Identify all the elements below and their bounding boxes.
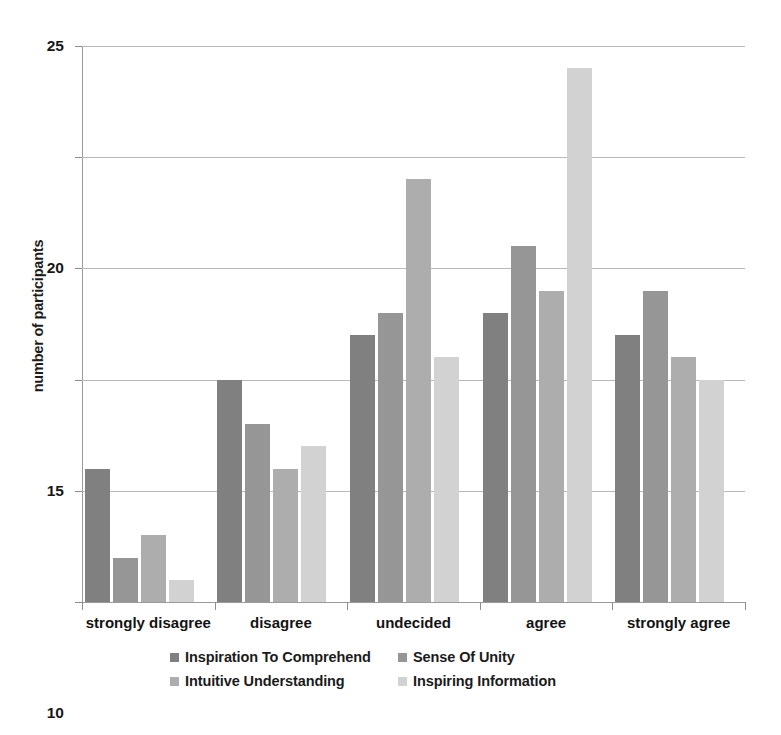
bar[interactable] [169,580,194,602]
legend-swatch-icon [398,677,407,686]
legend-label: Intuitive Understanding [185,673,345,689]
y-tick-mark-25: 25 [75,46,82,47]
bar[interactable] [85,469,110,602]
x-tick-mark [480,602,481,610]
bar[interactable] [217,380,242,602]
gridline-0 [82,602,745,603]
legend-swatch-icon [398,653,407,662]
x-tick-mark [215,602,216,610]
legend-row: Inspiration To ComprehendSense Of Unity [170,649,620,665]
bar[interactable] [113,558,138,602]
bar[interactable] [434,357,459,602]
legend-label: Sense Of Unity [413,649,515,665]
bar[interactable] [273,469,298,602]
legend-swatch-icon [170,653,179,662]
plot-area: 0510152025 [82,46,745,602]
legend-label: Inspiration To Comprehend [185,649,371,665]
y-tick-mark-0: 0 [75,602,82,603]
bar[interactable] [615,335,640,602]
bar-chart: number of participants 0510152025 strong… [0,0,781,735]
bar[interactable] [350,335,375,602]
x-tick-label-strongly-agree: strongly agree [627,614,730,631]
bar[interactable] [671,357,696,602]
y-tick-label-10: 10 [47,704,64,722]
x-tick-mark [612,602,613,610]
y-tick-label-20: 20 [47,259,64,277]
legend-swatch-icon [170,677,179,686]
x-tick-label-agree: agree [526,614,566,631]
bar[interactable] [539,291,564,602]
bar-group-strongly-agree [615,46,724,602]
legend-item-inspiration-to-comprehend[interactable]: Inspiration To Comprehend [170,649,398,665]
bar-group-undecided [350,46,459,602]
y-axis-title: number of participants [30,216,46,416]
bar[interactable] [511,246,536,602]
bar[interactable] [567,68,592,602]
bar[interactable] [141,535,166,602]
x-tick-mark [347,602,348,610]
y-tick-label-25: 25 [47,37,64,55]
y-tick-mark-15: 15 [75,268,82,269]
legend-item-sense-of-unity[interactable]: Sense Of Unity [398,649,515,665]
legend-label: Inspiring Information [413,673,556,689]
bar-group-agree [483,46,592,602]
x-tick-mark [82,602,83,610]
y-tick-label-15: 15 [47,482,64,500]
y-tick-mark-20: 20 [75,157,82,158]
legend-item-intuitive-understanding[interactable]: Intuitive Understanding [170,673,398,689]
x-tick-mark [745,602,746,610]
legend-row: Intuitive UnderstandingInspiring Informa… [170,673,620,689]
bar[interactable] [406,179,431,602]
legend-item-inspiring-information[interactable]: Inspiring Information [398,673,556,689]
y-tick-mark-5: 5 [75,491,82,492]
bar[interactable] [699,380,724,602]
x-tick-label-strongly-disagree: strongly disagree [86,614,211,631]
bar[interactable] [378,313,403,602]
bar[interactable] [643,291,668,602]
x-tick-label-disagree: disagree [250,614,312,631]
bar-group-strongly-disagree [85,46,194,602]
y-tick-mark-10: 10 [75,380,82,381]
bar-group-disagree [217,46,326,602]
chart-legend: Inspiration To ComprehendSense Of UnityI… [170,649,620,697]
bar[interactable] [483,313,508,602]
bar[interactable] [245,424,270,602]
x-tick-label-undecided: undecided [376,614,451,631]
bar[interactable] [301,446,326,602]
